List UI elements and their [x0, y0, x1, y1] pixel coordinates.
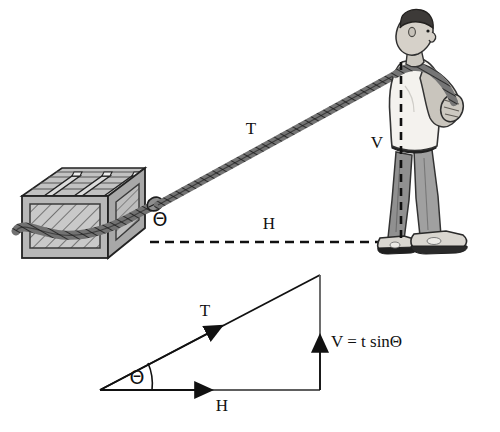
diagram-svg: T V H Θ T V = t sinΘ H Θ: [0, 0, 500, 432]
figure-canvas: T V H Θ T V = t sinΘ H Θ: [0, 0, 500, 432]
scene-tension-label: T: [246, 119, 257, 138]
triangle-hypotenuse-label: T: [200, 301, 211, 320]
person-front-shoe: [411, 231, 467, 254]
scene-vertical-label: V: [371, 133, 384, 152]
rope-tension-line: [158, 70, 404, 205]
triangle-vertical-label: V = t sinΘ: [331, 332, 402, 351]
scene-angle-label: Θ: [153, 208, 168, 230]
person-group: [378, 9, 468, 254]
scene-horizontal-label: H: [263, 214, 275, 233]
person-head: [396, 9, 436, 55]
triangle-angle-label: Θ: [130, 366, 145, 388]
triangle-horizontal-label: H: [216, 396, 228, 415]
crate-group: [22, 168, 145, 258]
person-front-leg: [414, 150, 441, 236]
triangle-angle-arc: [148, 363, 152, 390]
